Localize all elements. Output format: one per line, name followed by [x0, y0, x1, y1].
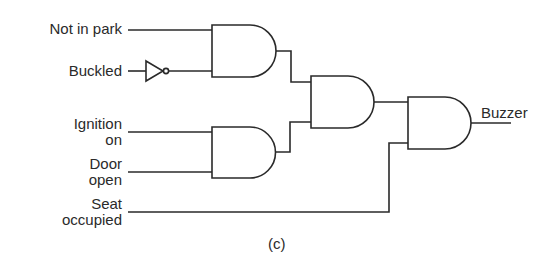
label-ignition-on: Ignition on — [74, 116, 122, 148]
and-gate-2-icon — [212, 127, 276, 178]
inverter-bubble — [163, 68, 168, 73]
label-ignition: Ignition — [74, 116, 122, 132]
and-gate-4-icon — [408, 97, 471, 149]
figure-caption: (c) — [268, 236, 286, 252]
wire-g1-to-g3 — [276, 51, 311, 82]
label-door-open: Door open — [89, 156, 122, 188]
wire-seat-occupied — [128, 143, 408, 212]
label-open: open — [89, 172, 122, 188]
label-buckled: Buckled — [69, 63, 122, 79]
label-seat: Seat — [62, 196, 122, 212]
label-door: Door — [89, 156, 122, 172]
label-seat-occupied: Seat occupied — [62, 196, 122, 228]
label-on: on — [74, 132, 122, 148]
label-occupied: occupied — [62, 212, 122, 228]
label-buzzer: Buzzer — [481, 105, 528, 121]
wire-g2-to-g3 — [276, 122, 311, 152]
and-gate-3-icon — [311, 76, 374, 128]
and-gate-1-icon — [212, 25, 276, 77]
not-gate-icon — [146, 61, 163, 81]
label-not-in-park: Not in park — [49, 21, 122, 37]
